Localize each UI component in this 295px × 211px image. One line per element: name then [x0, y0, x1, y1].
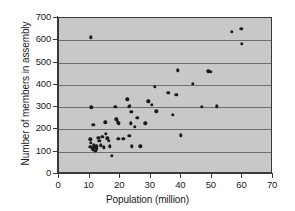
x-tick-label-60: 60	[236, 180, 246, 190]
data-point	[110, 154, 113, 157]
data-point	[121, 137, 124, 140]
data-point	[107, 139, 110, 142]
y-tick-300	[53, 106, 57, 107]
data-point	[171, 113, 174, 116]
data-point	[230, 30, 233, 33]
data-point	[167, 91, 170, 94]
y-tick-100	[53, 151, 57, 152]
x-tick-40	[180, 174, 181, 178]
x-tick-label-10: 10	[83, 180, 93, 190]
data-point	[155, 109, 158, 112]
data-point	[147, 99, 150, 102]
data-point	[104, 121, 107, 124]
data-point	[130, 144, 133, 147]
data-point	[209, 70, 212, 73]
gridline-y-200	[59, 129, 271, 130]
gridline-y-600	[59, 40, 271, 41]
data-point	[133, 125, 136, 128]
data-point	[108, 144, 111, 147]
data-point	[104, 132, 107, 135]
x-tick-30	[150, 174, 151, 178]
gridline-y-400	[59, 85, 271, 86]
data-point	[92, 123, 95, 126]
gridline-y-100	[59, 152, 271, 153]
x-tick-label-20: 20	[114, 180, 124, 190]
gridline-y-500	[59, 63, 271, 64]
data-point	[129, 110, 132, 113]
plot-area	[58, 17, 272, 173]
x-tick-label-70: 70	[267, 180, 277, 190]
data-point	[102, 146, 105, 149]
x-axis-title: Population (million)	[0, 194, 295, 205]
data-point	[98, 139, 101, 142]
x-tick-0	[58, 174, 59, 178]
x-tick-label-0: 0	[55, 180, 60, 190]
data-point	[126, 98, 129, 101]
data-point	[179, 134, 182, 137]
x-tick-label-30: 30	[145, 180, 155, 190]
data-point	[153, 85, 156, 88]
x-tick-60	[241, 174, 242, 178]
data-point	[175, 93, 178, 96]
x-tick-10	[89, 174, 90, 178]
data-point	[136, 116, 139, 119]
data-point	[240, 27, 243, 30]
data-point	[90, 105, 93, 108]
x-tick-50	[211, 174, 212, 178]
x-tick-70	[272, 174, 273, 178]
data-point	[128, 134, 131, 137]
data-point	[95, 147, 98, 150]
scatter-chart: 0100200300400500600700 010203040506070 P…	[0, 0, 295, 211]
y-axis-title: Number of members in assembly	[20, 0, 31, 189]
y-tick-500	[53, 62, 57, 63]
data-point	[117, 137, 120, 140]
data-point	[89, 36, 92, 39]
data-point	[129, 121, 132, 124]
x-tick-label-40: 40	[175, 180, 185, 190]
x-tick-label-50: 50	[206, 180, 216, 190]
y-tick-600	[53, 39, 57, 40]
y-tick-400	[53, 84, 57, 85]
data-point	[240, 42, 243, 45]
data-point	[176, 69, 179, 72]
data-point	[101, 135, 104, 138]
data-point	[139, 144, 142, 147]
x-tick-20	[119, 174, 120, 178]
data-point	[150, 103, 153, 106]
data-point	[144, 121, 147, 124]
y-tick-700	[53, 17, 57, 18]
data-point	[117, 121, 120, 124]
y-axis-line	[57, 16, 58, 174]
y-tick-200	[53, 128, 57, 129]
